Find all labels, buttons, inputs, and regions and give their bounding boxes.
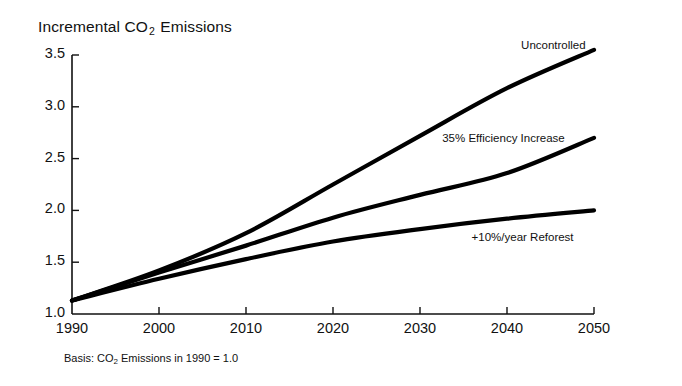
x-axis-tick-label: 1990	[37, 320, 107, 336]
y-axis-ticks	[72, 55, 79, 262]
basis-note-prefix: Basis: CO	[64, 352, 114, 364]
x-axis-tick-label: 2030	[385, 320, 455, 336]
x-axis-tick-label: 2050	[559, 320, 629, 336]
y-axis-tick-label: 2.5	[21, 149, 65, 165]
x-axis-tick-label: 2000	[124, 320, 194, 336]
y-axis-tick-label: 1.0	[21, 304, 65, 320]
y-axis-tick-label: 3.5	[21, 45, 65, 61]
series-curves	[72, 50, 594, 301]
x-axis-tick-label: 2010	[211, 320, 281, 336]
x-axis-tick-label: 2040	[472, 320, 542, 336]
series-line	[72, 210, 594, 300]
y-axis-tick-label: 3.0	[21, 97, 65, 113]
chart-basis-note: Basis: CO2 Emissions in 1990 = 1.0	[64, 352, 238, 364]
x-axis-tick-label: 2020	[298, 320, 368, 336]
chart-container: Incremental CO2 Emissions 1.01.52.02.53.…	[0, 0, 682, 386]
x-axis-ticks	[159, 307, 594, 314]
y-axis-tick-label: 2.0	[21, 200, 65, 216]
basis-note-suffix: Emissions in 1990 = 1.0	[118, 352, 238, 364]
y-axis-tick-label: 1.5	[21, 252, 65, 268]
series-label: 35% Efficiency Increase	[442, 132, 565, 144]
basis-note-subscript: 2	[114, 357, 118, 366]
series-line	[72, 50, 594, 301]
series-label: +10%/year Reforest	[472, 231, 574, 243]
series-label: Uncontrolled	[521, 39, 586, 51]
